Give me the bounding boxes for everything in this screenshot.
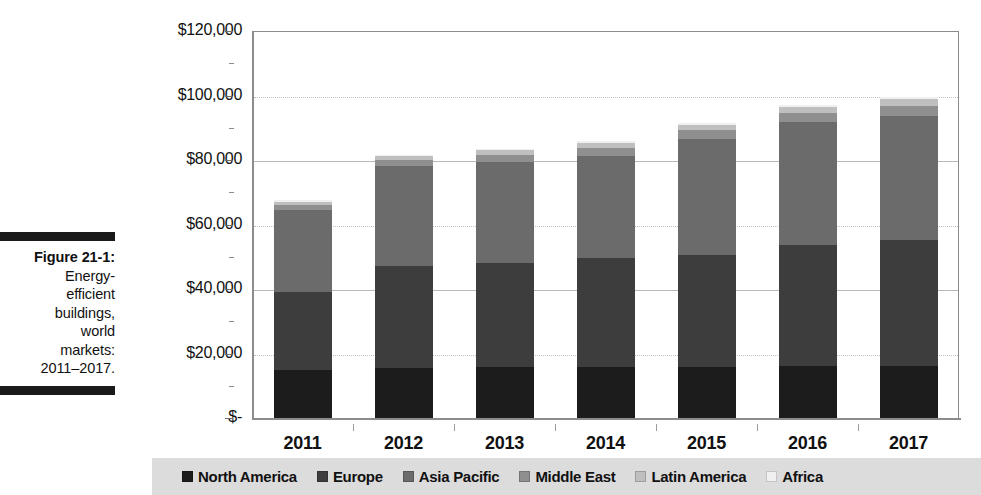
y-axis-tick [225, 354, 233, 355]
figure-number: Figure 21-1: [0, 248, 115, 267]
x-axis-tick-label: 2017 [864, 433, 954, 454]
chart: ($ Millions) $-$20,000$40,000$60,000$80,… [152, 0, 981, 495]
caption-line-6: 2011–2017. [0, 359, 115, 378]
x-axis-line [252, 418, 961, 420]
legend-swatch-icon [182, 471, 193, 482]
x-axis-tick-label: 2011 [258, 433, 348, 454]
legend-label: Middle East [535, 468, 615, 485]
legend-label: Europe [333, 468, 383, 485]
x-axis-tick-label: 2016 [763, 433, 853, 454]
y-axis-tick-label: $80,000 [132, 150, 242, 168]
bar-segment[interactable] [476, 155, 534, 162]
legend-item[interactable]: Middle East [519, 468, 615, 485]
bar-segment[interactable] [476, 263, 534, 367]
legend-swatch-icon [317, 471, 328, 482]
caption-line-4: world [0, 322, 115, 341]
bar-segment[interactable] [375, 368, 433, 418]
caption-line-2: efficient [0, 285, 115, 304]
y-axis-minor-tick [229, 321, 234, 322]
x-axis-labels: 2011201220132014201520162017 [252, 424, 959, 456]
x-axis-tick [555, 424, 556, 431]
bar-segment[interactable] [678, 139, 736, 255]
legend-item[interactable]: Asia Pacific [403, 468, 500, 485]
bar-segment[interactable] [880, 366, 938, 418]
y-axis-tick [225, 418, 233, 419]
legend-swatch-icon [519, 471, 530, 482]
legend-item[interactable]: Africa [766, 468, 823, 485]
y-axis-tick-label: $120,000 [132, 21, 242, 39]
legend-item[interactable]: Europe [317, 468, 383, 485]
y-axis-minor-tick [229, 257, 234, 258]
caption-text: Figure 21-1: Energy- efficient buildings… [0, 248, 148, 378]
bar-segment[interactable] [678, 255, 736, 367]
bar-segment[interactable] [779, 366, 837, 418]
bar-segment[interactable] [274, 370, 332, 418]
bar-segment[interactable] [274, 292, 332, 369]
bar-segment[interactable] [880, 240, 938, 366]
bar-segment[interactable] [476, 162, 534, 263]
bar-segment[interactable] [375, 266, 433, 368]
legend-items: North AmericaEuropeAsia PacificMiddle Ea… [152, 468, 981, 485]
caption-bottom-rule [0, 386, 115, 395]
bar-group[interactable] [375, 155, 433, 418]
legend-label: Asia Pacific [419, 468, 500, 485]
x-axis-tick [757, 424, 758, 431]
y-axis-tick [225, 160, 233, 161]
bar-group[interactable] [577, 141, 635, 418]
bar-segment[interactable] [779, 245, 837, 367]
y-axis-labels: $-$20,000$40,000$60,000$80,000$100,000$1… [132, 0, 242, 495]
figure-container: Figure 21-1: Energy- efficient buildings… [0, 0, 981, 495]
y-axis-minor-tick [229, 192, 234, 193]
bar-segment[interactable] [274, 210, 332, 292]
x-axis-tick-label: 2015 [662, 433, 752, 454]
y-axis-tick [225, 96, 233, 97]
y-axis-tick-label: $60,000 [132, 215, 242, 233]
x-axis-tick [656, 424, 657, 431]
y-axis-tick [225, 225, 233, 226]
x-axis-tick-label: 2012 [359, 433, 449, 454]
caption-top-rule [0, 232, 115, 241]
bar-segment[interactable] [577, 258, 635, 367]
bar-series-container [252, 31, 959, 418]
bar-segment[interactable] [678, 130, 736, 139]
bar-group[interactable] [880, 97, 938, 418]
y-axis-tick [225, 289, 233, 290]
bar-group[interactable] [779, 105, 837, 418]
y-axis-tick-label: $40,000 [132, 279, 242, 297]
bar-segment[interactable] [375, 166, 433, 266]
caption-line-1: Energy- [0, 267, 115, 286]
bar-segment[interactable] [577, 367, 635, 418]
x-axis-tick-label: 2014 [561, 433, 651, 454]
bar-group[interactable] [274, 200, 332, 418]
y-axis-tick-label: $20,000 [132, 344, 242, 362]
caption-line-3: buildings, [0, 304, 115, 323]
x-axis-tick-label: 2013 [460, 433, 550, 454]
y-axis-minor-tick [229, 63, 234, 64]
legend-item[interactable]: North America [182, 468, 297, 485]
figure-caption-block: Figure 21-1: Energy- efficient buildings… [0, 232, 148, 395]
legend-swatch-icon [403, 471, 414, 482]
y-axis-tick [225, 31, 233, 32]
bar-segment[interactable] [880, 116, 938, 240]
y-axis-minor-tick [229, 386, 234, 387]
chart-legend: North AmericaEuropeAsia PacificMiddle Ea… [152, 458, 981, 495]
bar-segment[interactable] [779, 113, 837, 122]
bar-group[interactable] [476, 149, 534, 418]
legend-swatch-icon [766, 471, 777, 482]
y-axis-tick-label: $100,000 [132, 86, 242, 104]
legend-label: Latin America [651, 468, 746, 485]
bar-segment[interactable] [476, 367, 534, 418]
legend-item[interactable]: Latin America [635, 468, 746, 485]
bar-segment[interactable] [880, 106, 938, 116]
y-axis-tick-label: $- [132, 408, 242, 426]
y-axis-minor-tick [229, 128, 234, 129]
bar-segment[interactable] [577, 148, 635, 156]
bar-segment[interactable] [779, 122, 837, 245]
legend-label: Africa [782, 468, 823, 485]
caption-line-5: markets: [0, 341, 115, 360]
legend-label: North America [198, 468, 297, 485]
x-axis-tick [353, 424, 354, 431]
bar-group[interactable] [678, 123, 736, 418]
bar-segment[interactable] [678, 367, 736, 418]
bar-segment[interactable] [577, 156, 635, 259]
